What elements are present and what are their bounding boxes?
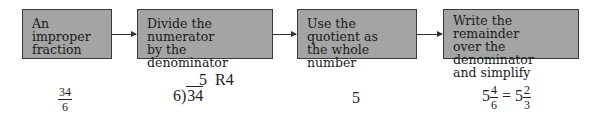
arrow-2 — [273, 34, 296, 35]
simplified-numerator: 2 — [523, 84, 531, 98]
divisor: 6 — [173, 87, 181, 104]
step-divide: Divide the numerator by the denominator — [137, 9, 273, 59]
arrow-1 — [112, 34, 136, 35]
step-quotient: Use the quotient as the whole number — [297, 9, 417, 59]
example-division: 5 R4 6)34 — [173, 72, 234, 104]
denominator: 6 — [491, 98, 497, 111]
equals-sign: = — [502, 87, 511, 104]
numerator: 34 — [58, 86, 72, 100]
numerator: 4 — [490, 84, 498, 98]
denominator: 6 — [62, 100, 68, 113]
step-remainder: Write the remainder over the denominator… — [443, 9, 579, 59]
example-whole-number: 5 — [352, 89, 360, 107]
example-result: 546 = 523 — [482, 84, 531, 111]
step-improper-fraction: An improper fraction — [22, 9, 112, 59]
example-fraction: 346 — [58, 86, 72, 113]
whole: 5 — [482, 87, 490, 104]
simplified-denominator: 3 — [524, 98, 530, 111]
simplified-whole: 5 — [515, 87, 523, 104]
remainder: R4 — [215, 71, 234, 88]
dividend: 34 — [186, 86, 203, 104]
arrow-3 — [417, 34, 442, 35]
